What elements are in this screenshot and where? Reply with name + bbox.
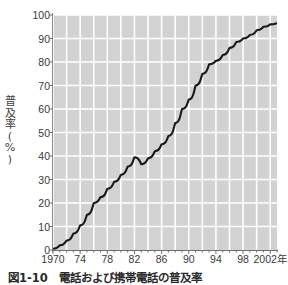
x-tick-label: 82 [129,254,141,265]
x-tick-label: 86 [156,254,168,265]
x-tick-label: 74 [74,254,86,265]
x-tick-label: 2002年 [254,254,287,265]
x-tick-label: 98 [237,254,249,265]
figure-caption: 図1-10 電話および携帯電話の普及率 [8,269,202,285]
x-tick-label: 90 [183,254,195,265]
x-tick-label: 1970 [41,254,64,265]
line-chart-svg [53,15,277,250]
x-tick-label: 94 [210,254,222,265]
x-tick-label: 78 [101,254,113,265]
x-axis-line [52,250,278,251]
plot-area [53,15,277,250]
